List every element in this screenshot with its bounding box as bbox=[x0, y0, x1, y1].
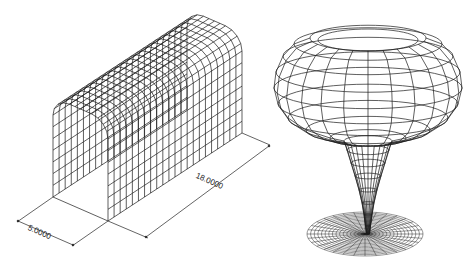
base-disc-mesh bbox=[307, 212, 423, 256]
dimension-lines bbox=[17, 133, 270, 246]
drawing-canvas bbox=[0, 0, 473, 272]
revolution-surface-mesh bbox=[274, 25, 462, 256]
tunnel-mesh bbox=[53, 15, 242, 221]
